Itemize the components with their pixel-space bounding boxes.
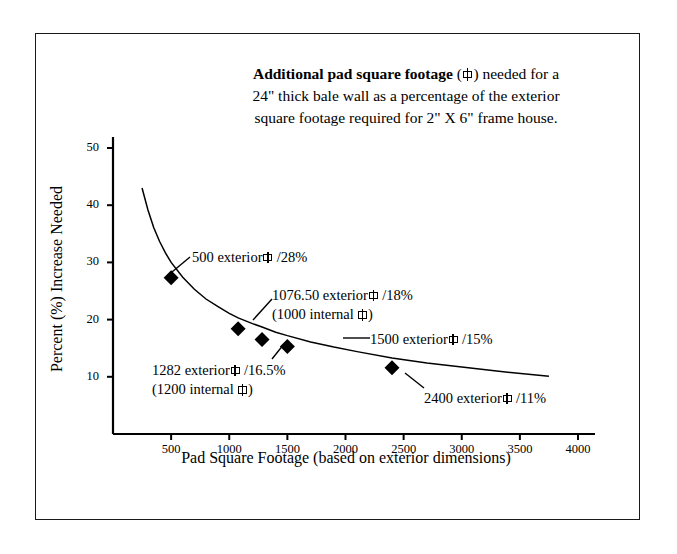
data-point-marker-1282 [255, 332, 270, 347]
square-foot-glyph-icon [369, 290, 378, 301]
annotation-1282-exterior: 1282 exterior /16.5%(1200 internal ) [152, 361, 286, 399]
square-foot-glyph-icon [263, 252, 272, 263]
chart-title-rest: ) needed for a [473, 65, 559, 82]
x-tick-label-4000: 4000 [550, 442, 606, 457]
square-foot-glyph-icon [231, 365, 240, 376]
chart-title-bold-lead: Additional pad square footage [253, 65, 453, 82]
annotation-2400-exterior: 2400 exterior /11% [424, 389, 546, 408]
annotation-line1-text: 1076.50 exterior [272, 287, 368, 303]
square-foot-glyph-icon [358, 309, 367, 320]
x-tick-label-2000: 2000 [318, 442, 374, 457]
x-tick-label-1000: 1000 [201, 442, 257, 457]
annotation-line2-suffix: ) [368, 306, 373, 322]
annotation-line2-text: (1000 internal [272, 306, 357, 322]
annotation-line1-suffix: /15% [458, 331, 492, 347]
y-axis-label: Percent (%) Increase Needed [48, 164, 66, 394]
annotation-line1-text: 1500 exterior [370, 331, 448, 347]
data-point-marker-2400 [385, 360, 400, 375]
y-tick-label-20: 20 [65, 312, 99, 327]
annotation-line1-suffix: /16.5% [240, 362, 285, 378]
annotation-line2-suffix: ) [248, 381, 253, 397]
leader-line-1076 [253, 299, 272, 320]
y-tick-label-40: 40 [65, 197, 99, 212]
leader-line-2400 [405, 373, 424, 388]
x-tick-label-2500: 2500 [376, 442, 432, 457]
x-tick-label-1500: 1500 [259, 442, 315, 457]
y-tick-label-50: 50 [65, 140, 99, 155]
annotation-line1-text: 2400 exterior [424, 390, 502, 406]
annotation-line1-suffix: /11% [512, 390, 546, 406]
annotation-line1-suffix: /18% [379, 287, 413, 303]
data-point-marker-1076.5 [231, 321, 246, 336]
square-foot-glyph-icon [463, 68, 473, 80]
data-point-marker-500 [164, 270, 179, 285]
x-tick-label-3000: 3000 [434, 442, 490, 457]
y-tick-label-10: 10 [65, 369, 99, 384]
chart-title-line2: 24" thick bale wall as a percentage of t… [252, 87, 559, 104]
chart-title-glyph-open: ( [453, 65, 462, 82]
chart-title: Additional pad square footage () needed … [196, 63, 616, 129]
annotation-line1-text: 1282 exterior [152, 362, 230, 378]
leader-line-1282 [272, 344, 284, 359]
x-tick-label-3500: 3500 [492, 442, 548, 457]
chart-title-line3: square footage required for 2" X 6" fram… [254, 109, 557, 126]
annotation-1076-exterior: 1076.50 exterior /18%(1000 internal ) [272, 286, 413, 324]
annotation-line2-text: (1200 internal [152, 381, 237, 397]
x-tick-label-500: 500 [143, 442, 199, 457]
square-foot-glyph-icon [238, 384, 247, 395]
leader-line-500 [172, 257, 190, 272]
annotation-1500-exterior: 1500 exterior /15% [370, 330, 493, 349]
square-foot-glyph-icon [449, 334, 458, 345]
annotation-line1-text: 500 exterior [192, 249, 262, 265]
square-foot-glyph-icon [503, 393, 512, 404]
annotation-500-exterior: 500 exterior /28% [192, 248, 307, 267]
annotation-line1-suffix: /28% [273, 249, 307, 265]
y-tick-label-30: 30 [65, 254, 99, 269]
